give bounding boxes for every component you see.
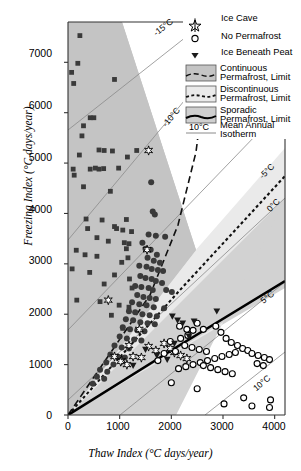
legend: Ice Cave No Permafrost Ice Beneath Peat … (183, 8, 296, 139)
data-point-circle-filled (153, 296, 159, 302)
data-point-circle-open (249, 403, 255, 409)
data-point-circle-open (178, 335, 184, 341)
data-point-square (72, 173, 77, 178)
data-point-square (127, 277, 132, 282)
data-point-square (116, 166, 121, 171)
data-point-circle-open (249, 351, 255, 357)
data-point-circle-filled (162, 234, 168, 240)
data-point-square (112, 77, 117, 82)
data-point-circle-filled (117, 333, 123, 339)
data-point-square (98, 299, 103, 304)
data-point-circle-filled (137, 319, 143, 325)
data-point-square (122, 240, 127, 245)
data-point-circle-filled (147, 295, 153, 301)
data-point-square (134, 148, 139, 153)
data-point-square (108, 189, 113, 194)
data-point-square (106, 239, 111, 244)
data-point-circle-filled (140, 294, 146, 300)
data-point-square (109, 313, 114, 318)
data-point-circle-filled (130, 317, 136, 323)
legend-label-isotherm-line2: Isotherm (220, 130, 256, 140)
data-point-circle-open (267, 357, 273, 363)
data-point-circle-open (176, 366, 182, 372)
data-point-square (102, 148, 107, 153)
data-point-square (112, 273, 117, 278)
data-point-circle-open (260, 363, 266, 369)
data-point-circle-open (219, 354, 225, 360)
legend-label-continuous-line2: Permafrost, Limit (220, 73, 290, 83)
data-point-circle-filled (129, 299, 135, 305)
data-point-circle-filled (139, 240, 145, 246)
data-point-square (85, 226, 90, 231)
data-point-circle-open (182, 342, 188, 348)
isotherm-line-10 (205, 352, 285, 415)
data-point-square (69, 70, 74, 75)
data-point-circle-filled (138, 337, 144, 343)
data-point-circle-filled (144, 264, 150, 270)
data-point-square (120, 228, 125, 233)
data-point-circle-open (190, 327, 196, 333)
data-point-circle-filled (136, 263, 142, 269)
data-point-circle-filled (148, 179, 154, 185)
legend-label-discontinuous-line2: Permafrost, Limit (220, 94, 290, 104)
data-point-circle-open (161, 351, 167, 357)
data-point-circle-filled (160, 268, 166, 274)
data-point-circle-open (254, 361, 260, 367)
data-point-circle-filled (101, 376, 107, 382)
data-point-circle-open (189, 344, 195, 350)
data-point-circle-filled (94, 374, 100, 380)
data-point-circle-filled (146, 232, 152, 238)
data-point-circle-open (232, 350, 238, 356)
legend-isotherm-key: 10°C (189, 122, 209, 132)
data-point-square (91, 115, 96, 120)
data-point-square (81, 123, 86, 128)
data-point-circle-filled (103, 360, 109, 366)
data-point-circle-open (208, 365, 214, 371)
legend-marker-circle-open-icon (192, 35, 198, 41)
data-point-square (97, 148, 102, 153)
legend-swatch-discontinuous (186, 86, 216, 102)
data-point-circle-filled (120, 324, 126, 330)
xtick-label-2000: 2000 (145, 420, 195, 432)
data-point-circle-open (205, 358, 211, 364)
data-point-circle-filled (155, 267, 161, 273)
data-point-square (124, 246, 129, 251)
ytick-label-1000: 1000 (6, 358, 52, 370)
data-point-square (119, 260, 124, 265)
data-point-circle-filled (123, 316, 129, 322)
data-point-circle-open (200, 363, 206, 369)
ytick-label-7000: 7000 (6, 47, 52, 59)
data-point-circle-filled (145, 320, 151, 326)
data-point-circle-filled (138, 284, 144, 290)
data-point-square (80, 133, 85, 138)
data-point-square (84, 217, 89, 222)
data-point-square (71, 81, 76, 86)
data-point-circle-open (267, 404, 273, 410)
data-point-circle-filled (143, 275, 149, 281)
data-point-square (87, 270, 92, 275)
xtick-label-1000: 1000 (93, 420, 143, 432)
data-point-circle-open (200, 326, 206, 332)
data-point-square (71, 167, 76, 172)
data-point-circle-filled (136, 301, 142, 307)
data-point-circle-open (241, 395, 247, 401)
data-point-circle-filled (153, 233, 159, 239)
data-point-square (125, 155, 130, 160)
data-point-circle-open (229, 371, 235, 377)
data-point-circle-open (184, 326, 190, 332)
data-point-circle-open (196, 347, 202, 353)
data-point-circle-filled (132, 309, 138, 315)
data-point-circle-open (155, 358, 161, 364)
data-point-circle-open (190, 362, 196, 368)
data-point-circle-filled (145, 255, 151, 261)
data-point-circle-open (223, 335, 229, 341)
data-point-circle-filled (126, 308, 132, 314)
legend-swatch-sporadic (186, 107, 216, 123)
data-point-circle-filled (153, 278, 159, 284)
data-point-circle-filled (151, 304, 157, 310)
data-point-circle-filled (127, 326, 133, 332)
data-point-circle-open (203, 349, 209, 355)
data-point-circle-filled (159, 280, 165, 286)
legend-swatch-continuous (186, 65, 216, 81)
data-point-circle-open (194, 386, 200, 392)
